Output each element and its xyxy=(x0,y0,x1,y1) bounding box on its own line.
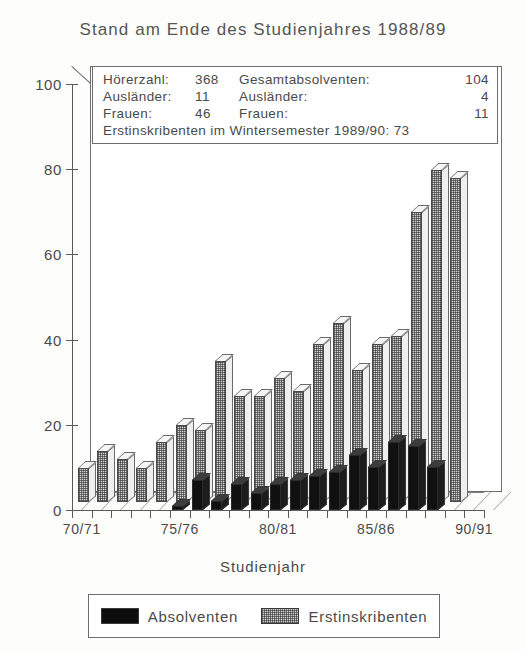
bar-absolventen xyxy=(408,446,419,510)
info-label: Gesamtabsolventen: xyxy=(239,72,451,87)
info-label: Ausländer: xyxy=(103,89,195,104)
bar-side-face xyxy=(147,462,154,502)
bar-front-face xyxy=(97,451,108,502)
bar-erstinskribenten xyxy=(450,178,461,502)
bar-side-face xyxy=(320,470,327,510)
x-axis-line xyxy=(72,510,484,511)
x-axis-tick xyxy=(347,510,348,518)
bar-front-face xyxy=(117,459,128,502)
floor-grid-line xyxy=(493,492,511,510)
bar-erstinskribenten xyxy=(136,468,147,502)
y-axis-tick xyxy=(66,254,78,255)
bar-side-face xyxy=(226,356,233,502)
info-value: 104 xyxy=(451,72,489,87)
bar-front-face xyxy=(368,467,379,510)
floor-grid-line xyxy=(473,492,491,510)
bar-absolventen xyxy=(388,442,399,510)
bar-side-face xyxy=(301,474,308,510)
info-value: 4 xyxy=(451,89,489,104)
y-axis-tick-label: 0 xyxy=(53,502,62,519)
page-title: Stand am Ende des Studienjahres 1988/89 xyxy=(0,20,526,40)
legend-swatch-erstinskribenten xyxy=(261,608,299,624)
bar-absolventen xyxy=(192,480,203,510)
x-axis-tick xyxy=(464,510,465,518)
bar-front-face xyxy=(172,506,183,510)
bar-absolventen xyxy=(309,476,320,510)
bar-front-face xyxy=(290,480,301,510)
bar-side-face xyxy=(438,462,445,510)
legend-item-erstinskribenten: Erstinskribenten xyxy=(261,608,427,625)
info-label: Hörerzahl: xyxy=(103,72,195,87)
x-axis-tick xyxy=(131,510,132,518)
info-label: Ausländer: xyxy=(239,89,451,104)
info-box: Hörerzahl:368Gesamtabsolventen:104Auslän… xyxy=(92,66,498,144)
bar-erstinskribenten xyxy=(176,425,187,502)
x-axis-tick xyxy=(92,510,93,518)
bar-front-face xyxy=(408,446,419,510)
bar-front-face xyxy=(192,480,203,510)
bar-side-face xyxy=(340,466,347,510)
bar-side-face xyxy=(461,172,468,502)
x-axis-tick xyxy=(72,510,73,518)
bar-side-face xyxy=(108,445,115,502)
info-value: 368 xyxy=(195,72,239,87)
bar-side-face xyxy=(442,164,449,502)
bar-front-face xyxy=(215,361,226,502)
x-axis-tick xyxy=(366,510,367,518)
bar-erstinskribenten xyxy=(78,468,89,502)
x-axis-tick-label: 90/91 xyxy=(455,521,493,537)
axis-corner-skew xyxy=(72,66,92,86)
info-label: Frauen: xyxy=(239,106,451,121)
bar-erstinskribenten xyxy=(215,361,226,502)
legend-label: Erstinskribenten xyxy=(308,608,427,625)
x-axis-tick xyxy=(170,510,171,518)
bar-erstinskribenten xyxy=(117,459,128,502)
bar-absolventen xyxy=(427,467,438,510)
bar-absolventen xyxy=(270,484,281,510)
bar-side-face xyxy=(203,474,210,510)
bar-front-face xyxy=(349,455,360,510)
bar-front-face xyxy=(136,468,147,502)
bar-absolventen xyxy=(231,484,242,510)
y-axis-tick-label: 60 xyxy=(44,246,62,263)
bar-front-face xyxy=(176,425,187,502)
x-axis-tick xyxy=(150,510,151,518)
bar-front-face xyxy=(78,468,89,502)
legend-label: Absolventen xyxy=(148,608,238,625)
y-axis-tick-label: 100 xyxy=(35,76,62,93)
bar-erstinskribenten xyxy=(97,451,108,502)
chart-page: Stand am Ende des Studienjahres 1988/89 … xyxy=(0,0,526,654)
info-value: 46 xyxy=(195,106,239,121)
bar-erstinskribenten xyxy=(156,442,167,502)
bar-side-face xyxy=(167,436,174,501)
x-axis-tick xyxy=(484,510,485,518)
bar-absolventen xyxy=(349,455,360,510)
bar-absolventen xyxy=(211,501,222,510)
bar-absolventen xyxy=(368,467,379,510)
bar-side-face xyxy=(128,454,135,502)
x-axis-tick xyxy=(190,510,191,518)
bar-side-face xyxy=(89,462,96,502)
x-axis-tick xyxy=(209,510,210,518)
x-axis-tick xyxy=(327,510,328,518)
bar-front-face xyxy=(231,484,242,510)
bar-front-face xyxy=(450,178,461,502)
bar-absolventen xyxy=(329,472,340,510)
x-axis-tick-label: 80/81 xyxy=(259,521,297,537)
info-footer: Erstinskribenten im Wintersemester 1989/… xyxy=(103,123,489,138)
x-axis-tick-label: 75/76 xyxy=(161,521,199,537)
y-axis-tick xyxy=(66,169,78,170)
x-axis-tick xyxy=(288,510,289,518)
x-axis-tick xyxy=(249,510,250,518)
bar-absolventen xyxy=(172,506,183,510)
legend-item-absolventen: Absolventen xyxy=(101,608,238,625)
x-axis-tick xyxy=(111,510,112,518)
bar-front-face xyxy=(388,442,399,510)
bar-front-face xyxy=(156,442,167,502)
y-axis-tick xyxy=(66,425,78,426)
info-grid: Hörerzahl:368Gesamtabsolventen:104Auslän… xyxy=(103,72,489,121)
y-axis-tick-label: 80 xyxy=(44,161,62,178)
y-axis-tick xyxy=(66,340,78,341)
bar-front-face xyxy=(329,472,340,510)
bar-erstinskribenten xyxy=(431,170,442,502)
